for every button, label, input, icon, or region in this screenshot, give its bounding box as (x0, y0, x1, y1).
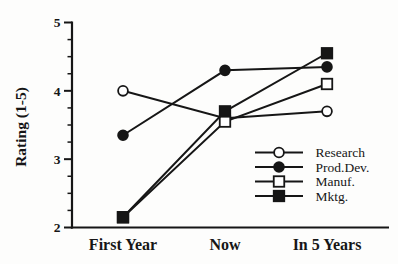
legend-label-research: Research (316, 145, 366, 160)
series-marker-proddev (118, 130, 128, 140)
legend-label-mktg: Mktg. (316, 189, 349, 204)
x-category-label: First Year (89, 236, 157, 253)
series-marker-manuf (220, 116, 231, 127)
series-marker-proddev (322, 62, 332, 72)
series-line-manuf (123, 84, 327, 217)
legend-marker-proddev (274, 162, 284, 172)
x-category-label: Now (209, 236, 241, 253)
series-marker-manuf (322, 79, 333, 90)
rating-line-chart: 2345First YearNowIn 5 YearsRating (1-5)R… (0, 0, 398, 264)
legend-marker-research (274, 148, 284, 158)
axes: 2345First YearNowIn 5 Years (54, 15, 389, 253)
series-marker-mktg (220, 106, 231, 117)
legend: ResearchProd.Dev.Manuf.Mktg. (255, 145, 369, 204)
legend-marker-mktg (274, 191, 285, 202)
series-proddev (118, 62, 332, 140)
legend-item-mktg: Mktg. (255, 189, 348, 204)
legend-item-manuf: Manuf. (255, 174, 355, 189)
y-axis-title: Rating (1-5) (12, 87, 30, 167)
legend-label-manuf: Manuf. (316, 174, 355, 189)
y-tick-label: 5 (54, 15, 61, 30)
series-line-mktg (123, 53, 327, 217)
series-marker-research (322, 106, 332, 116)
legend-item-proddev: Prod.Dev. (255, 160, 369, 175)
legend-label-proddev: Prod.Dev. (316, 160, 370, 175)
y-tick-label: 2 (54, 220, 61, 235)
legend-item-research: Research (255, 145, 365, 160)
legend-marker-manuf (274, 176, 285, 187)
y-tick-label: 3 (54, 152, 61, 167)
series-marker-proddev (220, 65, 230, 75)
series-marker-mktg (322, 48, 333, 59)
y-tick-label: 4 (54, 84, 61, 99)
series-manuf (118, 79, 333, 223)
series-marker-research (118, 86, 128, 96)
line-chart-svg: 2345First YearNowIn 5 YearsRating (1-5)R… (0, 0, 398, 264)
series-marker-mktg (118, 212, 129, 223)
x-category-label: In 5 Years (293, 236, 362, 253)
